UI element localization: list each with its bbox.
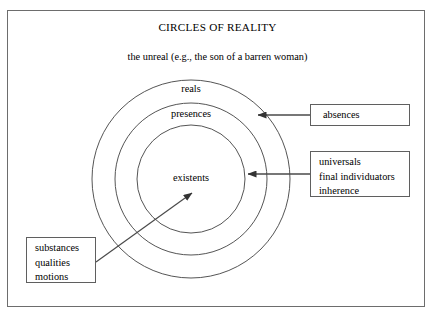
callout-substances-line-3: motions (35, 270, 95, 285)
callout-box-universals: universals final individuators inherence (310, 151, 410, 197)
callout-absences-line-1: absences (323, 108, 360, 123)
page-title: CIRCLES OF REALITY (0, 21, 435, 34)
callout-universals-line-3: inherence (319, 184, 409, 199)
circles-of-reality-diagram: CIRCLES OF REALITY the unreal (e.g., the… (0, 0, 435, 318)
callout-substances-line-1: substances (35, 241, 95, 256)
callout-box-substances: substances qualities motions (26, 237, 96, 283)
callout-box-absences: absences (310, 104, 410, 126)
arrow-substances-to-existents (96, 193, 192, 262)
callout-substances-line-2: qualities (35, 256, 95, 271)
circle-label-reals: reals (0, 83, 382, 95)
unreal-note: the unreal (e.g., the son of a barren wo… (0, 51, 435, 63)
callout-universals-line-2: final individuators (319, 170, 409, 185)
callout-universals-line-1: universals (319, 155, 409, 170)
